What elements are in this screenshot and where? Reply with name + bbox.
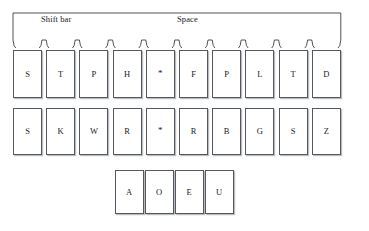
key-asterisk-bottom[interactable]: *: [146, 108, 175, 155]
key-r-left-label: R: [124, 127, 130, 136]
key-u-vowel-label: U: [216, 188, 222, 197]
key-u-vowel[interactable]: U: [205, 170, 234, 214]
key-a-vowel-label: A: [126, 188, 132, 197]
key-h-left[interactable]: H: [113, 50, 142, 98]
key-a-vowel[interactable]: A: [115, 170, 144, 214]
key-e-vowel-label: E: [186, 188, 191, 197]
key-t-right[interactable]: T: [279, 50, 308, 98]
space-bar-label: Space: [177, 14, 198, 24]
key-p-left[interactable]: P: [79, 50, 108, 98]
key-g-right-label: G: [257, 127, 263, 136]
shift-bar-label: Shift bar: [41, 14, 71, 24]
key-b-right-label: B: [224, 127, 230, 136]
key-asterisk-top[interactable]: *: [146, 50, 175, 98]
key-s-left-bottom[interactable]: S: [13, 108, 42, 155]
key-r-right-label: R: [191, 127, 197, 136]
key-z-right[interactable]: Z: [312, 108, 341, 155]
stenotype-keyboard-diagram: Shift bar Space STPH*FPLTDSKWR*RBGSZAOEU: [0, 0, 369, 231]
key-r-right[interactable]: R: [179, 108, 208, 155]
key-k-left-label: K: [58, 127, 64, 136]
key-o-vowel-label: O: [156, 188, 162, 197]
key-t-left-label: T: [58, 70, 63, 79]
key-h-left-label: H: [124, 70, 130, 79]
key-p-right[interactable]: P: [212, 50, 241, 98]
shift-space-bar[interactable]: [0, 0, 369, 48]
key-e-vowel[interactable]: E: [175, 170, 204, 214]
key-w-left-label: W: [90, 127, 98, 136]
key-d-right[interactable]: D: [312, 50, 341, 98]
key-g-right[interactable]: G: [245, 108, 274, 155]
key-s-left-top[interactable]: S: [13, 50, 42, 98]
key-s-right-label: S: [291, 127, 296, 136]
key-asterisk-top-label: *: [158, 69, 163, 78]
key-l-right[interactable]: L: [245, 50, 274, 98]
key-p-right-label: P: [224, 70, 229, 79]
key-o-vowel[interactable]: O: [145, 170, 174, 214]
key-asterisk-bottom-label: *: [158, 126, 163, 135]
key-f-right[interactable]: F: [179, 50, 208, 98]
key-z-right-label: Z: [324, 127, 329, 136]
key-l-right-label: L: [257, 70, 262, 79]
key-k-left[interactable]: K: [46, 108, 75, 155]
key-b-right[interactable]: B: [212, 108, 241, 155]
key-d-right-label: D: [323, 70, 329, 79]
key-s-left-bottom-label: S: [25, 127, 30, 136]
key-r-left[interactable]: R: [113, 108, 142, 155]
key-s-right[interactable]: S: [279, 108, 308, 155]
key-s-left-top-label: S: [25, 70, 30, 79]
key-t-left[interactable]: T: [46, 50, 75, 98]
key-p-left-label: P: [92, 70, 97, 79]
key-t-right-label: T: [290, 70, 295, 79]
key-f-right-label: F: [191, 70, 196, 79]
key-w-left[interactable]: W: [79, 108, 108, 155]
